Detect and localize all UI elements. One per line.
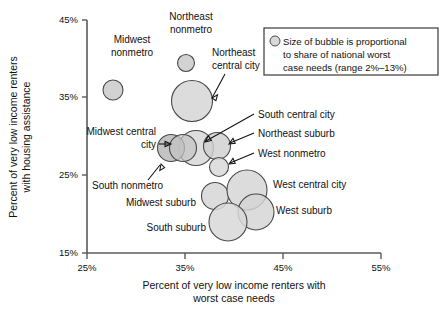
x-ticklabel-35: 35% xyxy=(175,262,195,273)
bubble-south-nonmetro[interactable] xyxy=(170,135,197,162)
label-west-central-city: West central city xyxy=(273,179,346,190)
bubble-chart: 45% 35% 25% 15% 25% 35% 45% 55% Percent … xyxy=(0,0,443,310)
legend: Size of bubble is proportional to share … xyxy=(264,28,438,75)
y-ticklabel-45: 45% xyxy=(59,14,79,25)
x-axis-title-line1: Percent of very low income renters with xyxy=(142,279,325,291)
bubble-northeast-central-city[interactable] xyxy=(172,81,213,122)
label-northeast-central-city-line1: Northeast xyxy=(212,47,256,58)
label-northeast-nonmetro-line2: nonmetro xyxy=(170,24,213,35)
x-ticklabel-45: 45% xyxy=(273,262,293,273)
bubble-northeast-nonmetro[interactable] xyxy=(178,55,195,72)
legend-line1: Size of bubble is proportional xyxy=(283,36,407,47)
y-ticklabel-25: 25% xyxy=(59,169,79,180)
leader-northeast-central-city xyxy=(212,74,225,98)
arrowhead-south-nonmetro xyxy=(160,164,165,170)
label-south-nonmetro: South nonmetro xyxy=(92,180,164,191)
label-south-central-city: South central city xyxy=(258,109,335,120)
x-ticklabel-25: 25% xyxy=(77,262,97,273)
leader-northeast-suburb xyxy=(230,133,254,143)
x-axis-title-line2: worst case needs xyxy=(192,292,275,304)
label-northeast-suburb: Northeast suburb xyxy=(258,128,335,139)
bubble-series xyxy=(103,55,274,242)
leader-west-nonmetro xyxy=(230,153,254,163)
leader-south-central-city xyxy=(206,114,254,141)
label-south-suburb: South suburb xyxy=(147,222,207,233)
label-midwest-suburb: Midwest suburb xyxy=(126,197,196,208)
label-midwest-nonmetro-line2: nonmetro xyxy=(111,47,154,58)
label-west-suburb: West suburb xyxy=(276,205,332,216)
legend-line2: to share of national worst xyxy=(283,49,391,60)
x-ticklabel-55: 55% xyxy=(371,262,391,273)
label-northeast-central-city-line2: central city xyxy=(212,60,260,71)
bubble-midwest-nonmetro[interactable] xyxy=(103,80,123,100)
label-west-nonmetro: West nonmetro xyxy=(258,148,326,159)
chart-canvas: 45% 35% 25% 15% 25% 35% 45% 55% Percent … xyxy=(0,0,443,310)
bubble-west-nonmetro[interactable] xyxy=(210,158,229,177)
y-ticklabel-15: 15% xyxy=(59,247,79,258)
label-midwest-nonmetro-line1: Midwest xyxy=(114,34,151,45)
y-axis-title-line2: with housing assistance xyxy=(20,81,32,193)
y-ticklabel-35: 35% xyxy=(59,91,79,102)
label-northeast-nonmetro-line1: Northeast xyxy=(169,11,213,22)
label-midwest-central-city-line2: city xyxy=(141,139,156,150)
y-axis-title-line1: Percent of very low income renters xyxy=(7,56,19,218)
arrowhead-west-nonmetro xyxy=(229,158,235,164)
bubble-south-suburb[interactable] xyxy=(209,203,247,241)
circle-outline-icon xyxy=(270,36,280,46)
leader-south-nonmetro xyxy=(148,165,160,180)
label-midwest-central-city-line1: Midwest central xyxy=(87,126,156,137)
legend-line3: case needs (range 2%–13%) xyxy=(283,62,407,73)
